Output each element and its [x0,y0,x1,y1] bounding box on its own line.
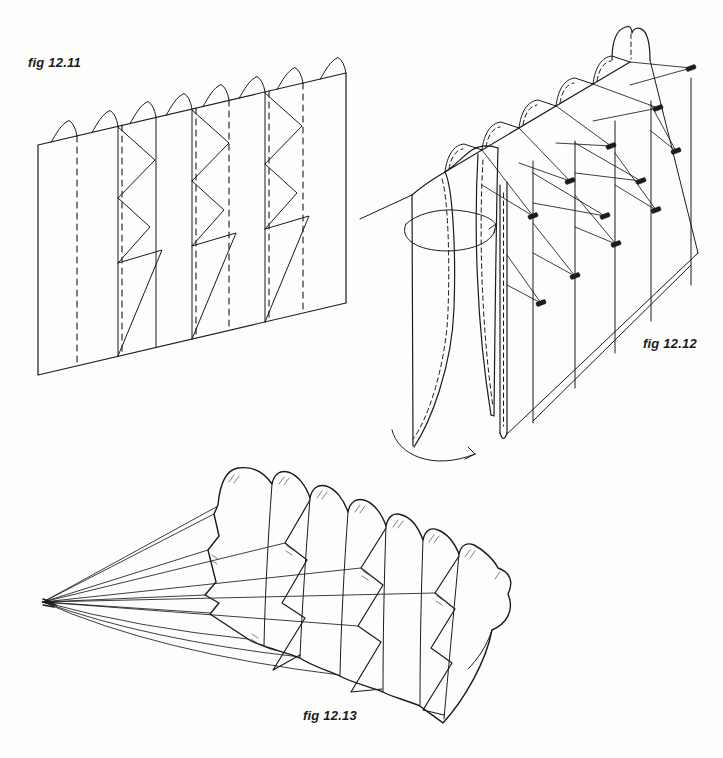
keel-toggles [528,64,697,307]
fig-12-11-drawing [15,45,355,395]
sheet-lattice [445,26,698,435]
curl-arrow-icon [404,210,496,251]
curled-panels [360,146,507,447]
canopy-outline [205,468,511,723]
fig-12-12-drawing [358,3,723,473]
fig-12-13-drawing [18,448,538,748]
book-page: { "page": { "background": "#fdfdfc", "in… [0,0,723,758]
